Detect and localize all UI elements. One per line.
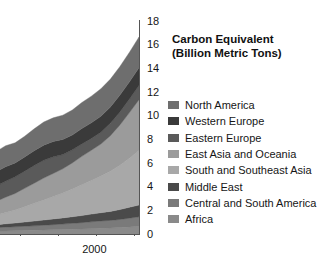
y-tick-label-14: 14 [147, 63, 159, 74]
y-tick-label-2: 2 [147, 205, 153, 216]
legend-item-label: Africa [185, 213, 213, 225]
y-tick-label-8: 8 [147, 134, 153, 145]
legend-item-western-europe[interactable]: Western Europe [168, 113, 323, 129]
y-tick-label-4: 4 [147, 181, 153, 192]
stacked-area-plot [0, 16, 140, 236]
y-tick-label-6: 6 [147, 158, 153, 169]
y-tick-label-16: 16 [147, 39, 159, 50]
area-series-group [0, 37, 139, 234]
legend-item-central-and-south-america[interactable]: Central and South America [168, 195, 323, 211]
legend-item-africa[interactable]: Africa [168, 211, 323, 227]
legend-swatch-icon [168, 134, 179, 142]
y-tick-label-18: 18 [147, 16, 159, 27]
legend-item-north-america[interactable]: North America [168, 97, 323, 113]
legend-swatch-icon [168, 183, 179, 191]
y-tick-label-12: 12 [147, 87, 159, 98]
legend-item-middle-east[interactable]: Middle East [168, 178, 323, 194]
chart-figure: 024681012141618 2000 Carbon Equivalent (… [0, 0, 323, 258]
legend-swatch-icon [168, 215, 179, 223]
x-tick-label-2000: 2000 [82, 244, 106, 255]
chart-title-line-1: Carbon Equivalent [172, 33, 322, 47]
y-tick-label-10: 10 [147, 110, 159, 121]
chart-legend: North AmericaWestern EuropeEastern Europ… [168, 97, 323, 227]
legend-item-label: Middle East [185, 181, 242, 193]
legend-item-label: Eastern Europe [185, 132, 261, 144]
legend-swatch-icon [168, 117, 179, 125]
legend-item-label: East Asia and Oceania [185, 148, 296, 160]
legend-item-label: South and Southeast Asia [185, 164, 312, 176]
chart-title-line-2: (Billion Metric Tons) [172, 47, 322, 61]
plot-area [0, 16, 140, 236]
legend-item-label: Western Europe [185, 115, 264, 127]
legend-swatch-icon [168, 150, 179, 158]
legend-swatch-icon [168, 199, 179, 207]
legend-item-eastern-europe[interactable]: Eastern Europe [168, 130, 323, 146]
legend-swatch-icon [168, 166, 179, 174]
legend-item-label: North America [185, 99, 255, 111]
chart-title: Carbon Equivalent (Billion Metric Tons) [172, 33, 322, 60]
legend-item-label: Central and South America [185, 197, 316, 209]
legend-item-south-and-southeast-asia[interactable]: South and Southeast Asia [168, 162, 323, 178]
y-tick-label-0: 0 [147, 229, 153, 240]
legend-swatch-icon [168, 101, 179, 109]
legend-item-east-asia-and-oceania[interactable]: East Asia and Oceania [168, 146, 323, 162]
